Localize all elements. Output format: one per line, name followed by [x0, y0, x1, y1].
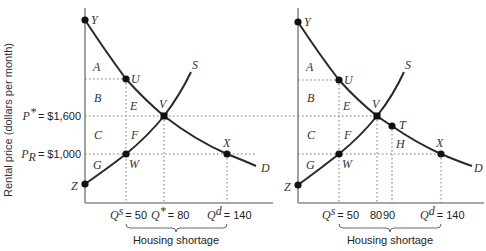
svg-text:Y: Y: [304, 15, 312, 29]
svg-text:X: X: [222, 136, 231, 150]
svg-text:E: E: [342, 99, 351, 113]
svg-text:D: D: [473, 161, 483, 175]
qs-label: Qs= 50: [322, 204, 359, 222]
qd-label: Qd= 140: [420, 204, 465, 222]
point-z: [81, 180, 88, 187]
pstar-label: P*= $1,600: [22, 105, 81, 123]
tick-80: 80: [370, 209, 382, 221]
right-chart: Y U V T W X Z S D A B E C F G H Qs= 50 8…: [284, 8, 484, 246]
left-demand-curve: [85, 20, 256, 166]
svg-text:Z: Z: [71, 179, 78, 193]
left-shortage-label: Housing shortage: [133, 234, 219, 246]
left-chart: Y U V W X Z S D A B E C F G P*= $1,600 P…: [20, 8, 298, 246]
qs-label: Qs= 50: [110, 204, 147, 222]
qd-label: Qd= 140: [207, 204, 252, 222]
rent-control-charts: Rental price (dollars per month) Y U V W…: [0, 0, 486, 251]
svg-text:X: X: [435, 136, 444, 150]
point-v: [161, 113, 168, 120]
svg-text:D: D: [260, 161, 270, 175]
svg-text:T: T: [399, 118, 407, 132]
point-y: [81, 16, 88, 23]
svg-text:G: G: [306, 158, 315, 172]
svg-text:C: C: [307, 128, 316, 142]
point-x: [437, 150, 444, 157]
svg-text:V: V: [372, 97, 381, 111]
svg-text:Z: Z: [284, 180, 291, 194]
left-shortage-brace: [126, 224, 227, 232]
point-t: [388, 122, 395, 129]
svg-text:W: W: [129, 157, 140, 171]
point-x: [223, 150, 230, 157]
svg-text:Y: Y: [91, 13, 99, 27]
svg-text:F: F: [343, 128, 352, 142]
svg-text:U: U: [131, 72, 141, 86]
svg-text:A: A: [305, 60, 314, 74]
point-z: [294, 181, 301, 188]
tick-90: 90: [383, 209, 395, 221]
svg-text:A: A: [92, 60, 101, 74]
svg-text:B: B: [94, 91, 102, 105]
svg-text:H: H: [395, 137, 406, 151]
right-shortage-label: Housing shortage: [347, 234, 433, 246]
svg-text:G: G: [93, 158, 102, 172]
point-u: [335, 76, 342, 83]
svg-text:U: U: [344, 73, 354, 87]
y-axis-label: Rental price (dollars per month): [2, 43, 14, 197]
svg-text:S: S: [405, 58, 411, 72]
point-y: [294, 18, 301, 25]
pr-label: PR= $1,000: [20, 147, 81, 164]
svg-text:E: E: [129, 99, 138, 113]
svg-text:F: F: [130, 128, 139, 142]
point-u: [122, 75, 129, 82]
right-shortage-brace: [339, 224, 441, 232]
svg-text:C: C: [94, 128, 103, 142]
qstar-label: Q*= 80: [151, 204, 189, 222]
point-v: [374, 113, 381, 120]
svg-text:B: B: [307, 91, 315, 105]
svg-text:W: W: [342, 157, 353, 171]
svg-text:V: V: [159, 97, 168, 111]
right-demand-curve: [298, 22, 472, 166]
svg-text:S: S: [192, 58, 198, 72]
